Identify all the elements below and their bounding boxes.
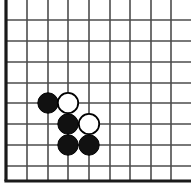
white-stone-e6[interactable] — [79, 114, 99, 134]
go-board-container[interactable] — [0, 0, 191, 188]
go-board-canvas[interactable] — [0, 0, 191, 188]
black-stone-d7[interactable] — [58, 135, 78, 155]
black-stone-c5[interactable] — [38, 93, 58, 113]
board-background — [0, 0, 191, 188]
white-stone-d5[interactable] — [58, 93, 78, 113]
black-stone-e7[interactable] — [79, 135, 99, 155]
black-stone-d6[interactable] — [58, 114, 78, 134]
